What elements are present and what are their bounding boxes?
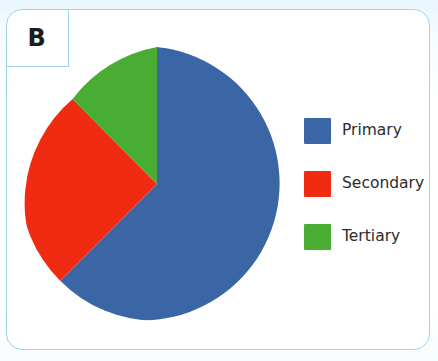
legend-label-tertiary: Tertiary: [342, 229, 400, 245]
legend-label-secondary: Secondary: [342, 176, 424, 192]
chart-legend: Primary Secondary Tertiary: [304, 118, 432, 250]
legend-swatch-secondary: [304, 171, 331, 197]
legend-swatch-tertiary: [304, 224, 331, 250]
figure-panel-b: B Primary Secondary: [0, 0, 438, 361]
pie-chart: [18, 44, 298, 326]
legend-swatch-primary: [304, 118, 331, 144]
pie-chart-svg: [18, 44, 298, 326]
legend-item-primary: Primary: [304, 118, 432, 144]
legend-item-tertiary: Tertiary: [304, 224, 432, 250]
legend-item-secondary: Secondary: [304, 171, 432, 197]
legend-label-primary: Primary: [342, 123, 402, 139]
